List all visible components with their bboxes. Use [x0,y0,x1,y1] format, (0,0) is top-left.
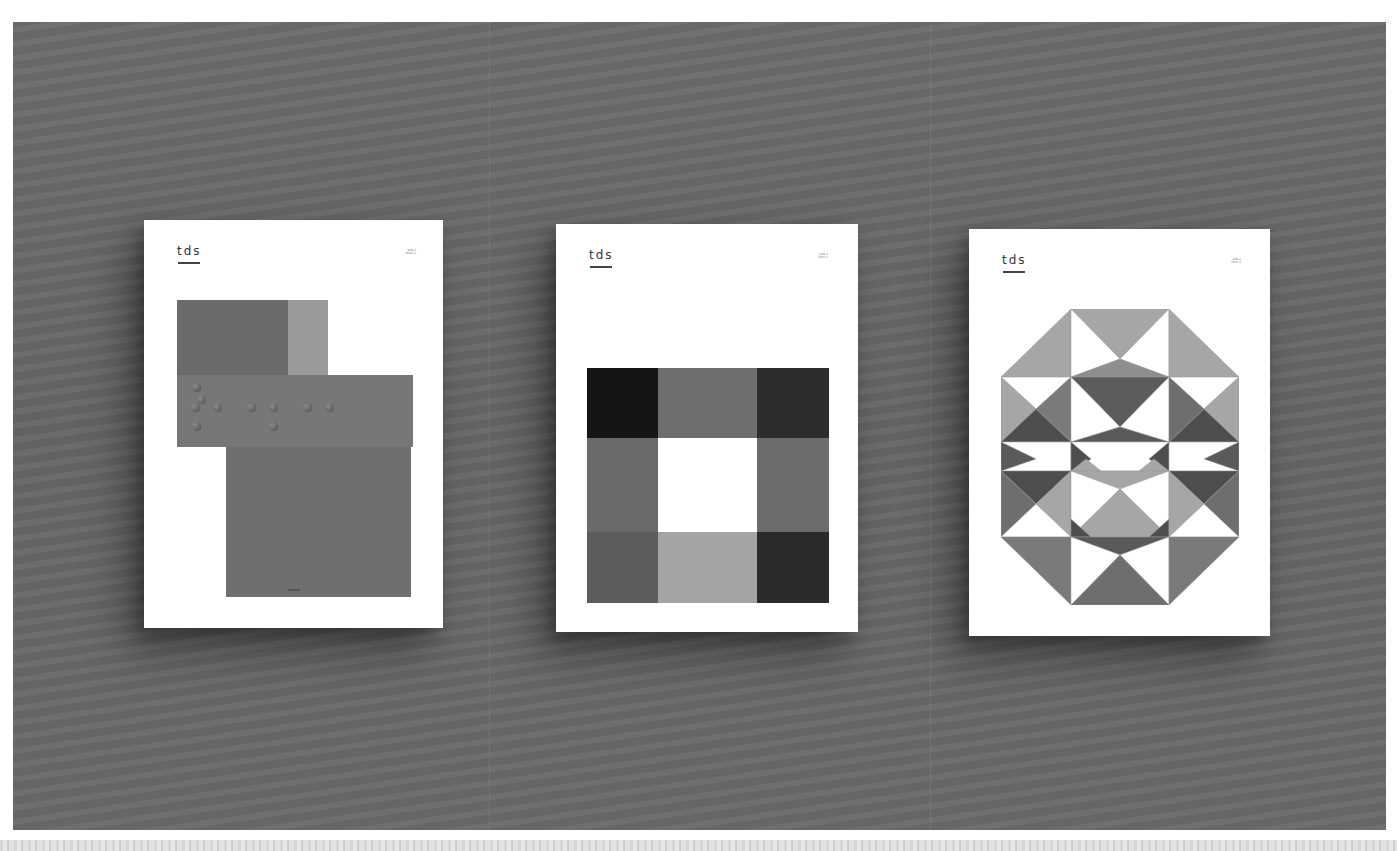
grid-cell [587,438,658,532]
grid-cell [587,368,658,438]
braille-dot [247,403,255,411]
poster-brand: tds [177,244,202,258]
brand-underline [1003,271,1025,273]
poster-brand: tds [1002,253,1027,267]
poster-issue-label: alfa 1 braill 1 [394,249,416,255]
braille-dot [191,403,199,411]
poster-issue-label: alfa 1 form 3 [1221,258,1241,264]
poster-octagon: tds alfa 1 form 3 [969,229,1270,636]
poster-brand: tds [589,248,614,262]
poster-nine-grid: tds alfa 1 form 2 [556,224,858,632]
braille-dot [269,422,277,430]
artwork-block-top-right [288,300,328,375]
grid-cell [658,438,757,532]
braille-dot [325,403,333,411]
small-mark [288,589,300,591]
braille-dot [197,395,205,403]
poster-braille: tds alfa 1 braill 1 [144,220,443,628]
artwork-octagon-pattern [1001,309,1239,605]
artwork-block-top-left [177,300,288,375]
artwork-nine-grid [587,368,829,603]
braille-dot [213,403,221,411]
artwork-block-lower [226,447,411,597]
grid-cell [757,532,829,603]
artwork-braille-band [177,375,413,447]
bottom-strip [0,840,1397,851]
grid-cell [658,532,757,603]
braille-dot [269,403,277,411]
wall-panel-seam [930,22,931,830]
grid-cell [757,368,829,438]
braille-dot [192,383,200,391]
brand-underline [178,262,200,264]
grid-cell [587,532,658,603]
grid-cell [658,368,757,438]
brand-underline [590,266,612,268]
wall-panel-seam [489,22,490,830]
braille-dot [192,422,200,430]
grid-cell [757,438,829,532]
braille-dot [303,403,311,411]
poster-issue-label: alfa 1 form 2 [808,253,828,259]
